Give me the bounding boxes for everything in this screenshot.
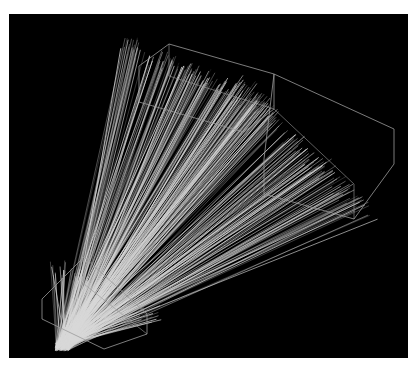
visualization-panel bbox=[9, 14, 408, 358]
fiber-tract-rendering bbox=[9, 14, 408, 358]
